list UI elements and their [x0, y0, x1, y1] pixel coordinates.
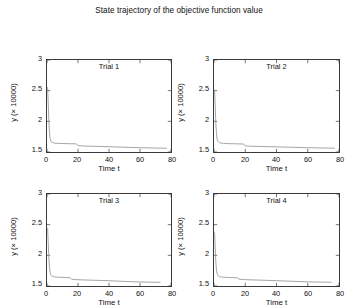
x-tick-label-3-40: 40	[101, 289, 117, 298]
y-tick-label-4-2.5: 2.5	[189, 218, 209, 227]
y-tick-label-1-2: 2	[22, 115, 42, 124]
series-line-4	[214, 194, 339, 286]
y-axis-label-2: y (× 10000)	[176, 68, 185, 138]
y-axis-label-4: y (× 10000)	[176, 202, 185, 272]
y-tick-label-4-2: 2	[189, 249, 209, 258]
x-tick-label-4-40: 40	[268, 289, 284, 298]
y-tick-label-2-3: 3	[189, 54, 209, 63]
y-tick-label-3-1.5: 1.5	[22, 279, 42, 288]
series-line-3	[47, 194, 171, 286]
subplot-trial-1: y (× 10000) 3 2.5 2 1.5 Trial 1 0 20 40 …	[0, 26, 179, 166]
y-tick-label-3-2.5: 2.5	[22, 218, 42, 227]
x-tick-label-4-80: 80	[332, 289, 348, 298]
plot-area-2: Trial 2	[213, 59, 340, 153]
y-tick-label-1-1.5: 1.5	[22, 145, 42, 154]
x-tick-label-3-0: 0	[38, 289, 54, 298]
subplot-trial-4: y (× 10000) 3 2.5 2 1.5 Trial 4 0 20 40 …	[167, 160, 358, 300]
x-tick-label-4-60: 60	[300, 289, 316, 298]
subplot-trial-2: y (× 10000) 3 2.5 2 1.5 Trial 2 0 20 40 …	[167, 26, 358, 166]
y-tick-label-3-2: 2	[22, 249, 42, 258]
y-axis-label-3: y (× 10000)	[9, 202, 18, 272]
plot-area-4: Trial 4	[213, 193, 340, 287]
x-axis-label-4: Time t	[213, 298, 340, 307]
y-tick-label-3-3: 3	[22, 188, 42, 197]
subplot-title-3: Trial 3	[47, 196, 171, 205]
y-tick-label-2-1.5: 1.5	[189, 145, 209, 154]
y-tick-label-2-2: 2	[189, 115, 209, 124]
subplot-title-4: Trial 4	[214, 196, 339, 205]
x-tick-label-3-60: 60	[132, 289, 148, 298]
x-tick-label-4-20: 20	[237, 289, 253, 298]
series-line-1	[47, 60, 171, 152]
plot-area-3: Trial 3	[46, 193, 172, 287]
y-tick-label-2-2.5: 2.5	[189, 84, 209, 93]
subplot-title-2: Trial 2	[214, 62, 339, 71]
series-line-2	[214, 60, 339, 152]
x-axis-label-3: Time t	[46, 298, 172, 307]
y-tick-label-1-3: 3	[22, 54, 42, 63]
x-tick-label-3-20: 20	[69, 289, 85, 298]
subplot-title-1: Trial 1	[47, 62, 171, 71]
y-tick-label-4-3: 3	[189, 188, 209, 197]
y-tick-label-1-2.5: 2.5	[22, 84, 42, 93]
plot-area-1: Trial 1	[46, 59, 172, 153]
y-tick-label-4-1.5: 1.5	[189, 279, 209, 288]
y-axis-label-1: y (× 10000)	[9, 68, 18, 138]
figure-title: State trajectory of the objective functi…	[0, 6, 358, 15]
subplot-trial-3: y (× 10000) 3 2.5 2 1.5 Trial 3 0 20 40 …	[0, 160, 179, 300]
x-tick-label-4-0: 0	[205, 289, 221, 298]
